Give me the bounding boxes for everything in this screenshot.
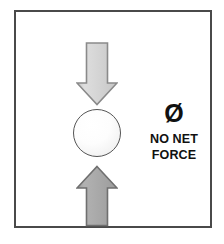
null-set-icon: Ø: [134, 100, 214, 126]
label-line-one: NO NET: [137, 131, 211, 147]
force-diagram: Ø NO NET FORCE: [0, 0, 224, 244]
upward-force-arrow: [76, 165, 118, 227]
diagram-frame: Ø NO NET FORCE: [14, 10, 212, 228]
ball: [73, 109, 121, 157]
downward-force-arrow: [76, 42, 118, 106]
label-line-two: FORCE: [137, 147, 211, 163]
no-net-force-label: Ø NO NET FORCE: [134, 100, 214, 163]
